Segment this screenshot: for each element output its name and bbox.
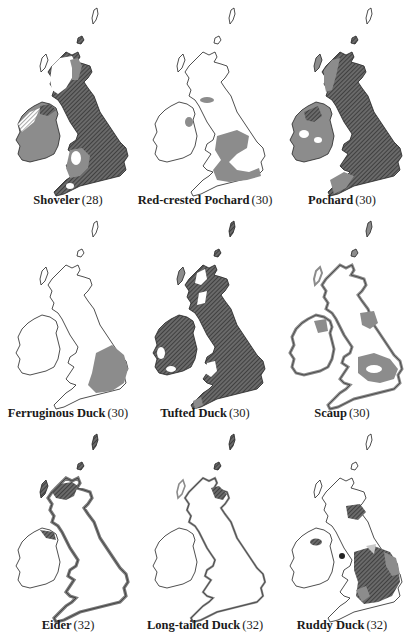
map-caption: Scaup(30): [274, 406, 410, 421]
shoveler-distribution-map: [0, 0, 136, 200]
map-pochard: Pochard(30): [274, 0, 410, 213]
species-name: Tufted Duck: [160, 406, 227, 420]
map-scaup: Scaup(30): [274, 213, 410, 426]
map-caption: Ruddy Duck(32): [274, 618, 410, 633]
map-shoveler: Shoveler(28): [0, 0, 136, 213]
species-name: Scaup: [314, 406, 347, 420]
species-name: Pochard: [308, 193, 353, 207]
map-caption: Red-crested Pochard(30): [137, 193, 273, 208]
species-name: Long-tailed Duck: [147, 618, 240, 632]
species-name: Ruddy Duck: [297, 618, 365, 632]
scaup-distribution-map: [274, 213, 410, 413]
map-red-crested-pochard: Red-crested Pochard(30): [137, 0, 273, 213]
map-caption: Ferruginous Duck(30): [0, 406, 136, 421]
map-number: (28): [82, 193, 103, 207]
long-tailed-duck-distribution-map: [137, 426, 273, 626]
map-grid: Shoveler(28) Red-crested Pochard(30): [0, 0, 410, 640]
map-number: (30): [355, 193, 376, 207]
eider-distribution-map: [0, 426, 136, 626]
map-number: (32): [242, 618, 263, 632]
map-number: (30): [349, 406, 370, 420]
map-number: (30): [229, 406, 250, 420]
map-tufted-duck: Tufted Duck(30): [137, 213, 273, 426]
pochard-distribution-map: [274, 0, 410, 200]
ferruginous-duck-distribution-map: [0, 213, 136, 413]
species-name: Red-crested Pochard: [138, 193, 250, 207]
map-caption: Pochard(30): [274, 193, 410, 208]
species-name: Shoveler: [33, 193, 80, 207]
map-caption: Shoveler(28): [0, 193, 136, 208]
map-number: (30): [252, 193, 273, 207]
map-number: (30): [107, 406, 128, 420]
species-name: Eider: [42, 618, 72, 632]
map-caption: Tufted Duck(30): [137, 406, 273, 421]
map-number: (32): [366, 618, 387, 632]
map-long-tailed-duck: Long-tailed Duck(32): [137, 426, 273, 639]
map-ruddy-duck: Ruddy Duck(32): [274, 426, 410, 639]
red-crested-pochard-distribution-map: [137, 0, 273, 200]
tufted-duck-distribution-map: [137, 213, 273, 413]
ruddy-duck-distribution-map: [274, 426, 410, 626]
map-caption: Long-tailed Duck(32): [137, 618, 273, 633]
map-ferruginous-duck: Ferruginous Duck(30): [0, 213, 136, 426]
map-number: (32): [74, 618, 95, 632]
species-name: Ferruginous Duck: [8, 406, 106, 420]
map-eider: Eider(32): [0, 426, 136, 639]
map-caption: Eider(32): [0, 618, 136, 633]
